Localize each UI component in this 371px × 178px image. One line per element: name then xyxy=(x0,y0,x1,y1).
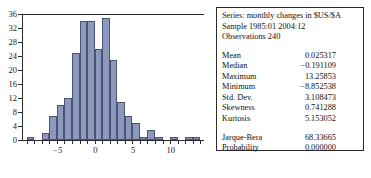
x-axis-tick-mark xyxy=(57,141,58,144)
y-axis-tick-label: 4 xyxy=(13,122,17,131)
y-axis-tick-label: 20 xyxy=(9,66,18,75)
histogram-bar xyxy=(87,21,95,140)
y-axis-tick-label: 8 xyxy=(13,108,17,117)
x-axis-tick-mark xyxy=(155,141,156,144)
stat-value: 5.153052 xyxy=(284,114,358,125)
histogram-bar xyxy=(102,18,110,141)
histogram-bar xyxy=(185,137,193,141)
stat-label: Median xyxy=(222,61,284,72)
x-axis-tick-mark xyxy=(42,141,43,144)
x-axis-tick-mark xyxy=(193,141,194,144)
histogram-bar xyxy=(140,137,148,141)
x-axis-tick-mark xyxy=(49,141,50,144)
stat-value: 3.108473 xyxy=(284,93,358,104)
histogram-bar xyxy=(125,116,133,141)
x-axis-tick-label: −5 xyxy=(53,146,62,155)
statistics-box: Series: monthly changes in $US/$A Sample… xyxy=(216,7,364,151)
x-axis-tick-mark xyxy=(125,141,126,144)
stats-spacer-2 xyxy=(222,125,358,133)
test-statistic-row: Jarque-Bera68.33665 xyxy=(222,133,358,144)
stats-spacer xyxy=(222,43,358,51)
descriptive-statistics-rows: Mean0.025317Median−0.191109Maximum13.258… xyxy=(222,51,358,125)
x-axis-tick-mark xyxy=(170,141,171,144)
x-axis-tick-mark xyxy=(132,141,133,144)
histogram-bar xyxy=(155,137,163,141)
x-axis-tick-mark xyxy=(140,141,141,144)
y-axis-tick-label: 36 xyxy=(9,10,18,19)
statistic-row: Minimum−8.852538 xyxy=(222,82,358,93)
histogram-bar xyxy=(49,116,57,141)
histogram-bar xyxy=(170,137,178,141)
statistic-row: Skewness0.741288 xyxy=(222,103,358,114)
x-axis-tick-mark xyxy=(178,141,179,144)
x-axis-tick-mark xyxy=(64,141,65,144)
x-axis-tick-mark xyxy=(72,141,73,144)
histogram-bar xyxy=(110,60,118,141)
test-statistic-row: Probability0.000000 xyxy=(222,143,358,154)
x-axis-tick-mark xyxy=(163,141,164,144)
stat-value: 0.741288 xyxy=(284,103,358,114)
x-axis-tick-mark xyxy=(80,141,81,144)
sample-label: Sample 1985:01 2004:12 xyxy=(222,22,358,33)
stat-label: Minimum xyxy=(222,82,284,93)
histogram-bar xyxy=(117,102,125,141)
statistic-row: Std. Dev.3.108473 xyxy=(222,93,358,104)
x-axis-tick-mark xyxy=(102,141,103,144)
stat-value: −8.852538 xyxy=(284,82,358,93)
histogram-bars xyxy=(23,14,204,140)
x-axis-tick-label: 10 xyxy=(167,146,176,155)
stat-value: 13.25853 xyxy=(284,72,358,83)
x-axis-tick-mark xyxy=(27,141,28,144)
x-axis-tick-mark xyxy=(34,141,35,144)
histogram-bar xyxy=(72,53,80,141)
x-axis-tick-mark xyxy=(200,141,201,144)
y-axis-tick-label: 16 xyxy=(9,80,18,89)
x-axis-tick-mark xyxy=(117,141,118,144)
x-axis-tick-label: 0 xyxy=(93,146,97,155)
histogram-bar xyxy=(193,137,201,141)
stat-label: Std. Dev. xyxy=(222,93,284,104)
series-label: Series: monthly changes in $US/$A xyxy=(222,11,358,22)
stat-label: Jarque-Bera xyxy=(222,133,284,144)
histogram-bar xyxy=(42,133,50,140)
x-axis-tick-mark xyxy=(87,141,88,144)
statistic-row: Kurtosis5.153052 xyxy=(222,114,358,125)
normality-test-rows: Jarque-Bera68.33665Probability0.000000 xyxy=(222,133,358,154)
statistic-row: Median−0.191109 xyxy=(222,61,358,72)
x-axis-tick-mark xyxy=(185,141,186,144)
histogram-bar xyxy=(132,123,140,141)
stat-label: Mean xyxy=(222,51,284,62)
statistic-row: Mean0.025317 xyxy=(222,51,358,62)
histogram-bar xyxy=(95,49,103,140)
stat-value: −0.191109 xyxy=(284,61,358,72)
y-axis-tick-label: 28 xyxy=(9,38,18,47)
statistic-row: Maximum13.25853 xyxy=(222,72,358,83)
x-axis-tick-labels: −50510 xyxy=(0,146,208,160)
observations-label: Observations 240 xyxy=(222,32,358,43)
histogram-bar xyxy=(57,105,65,140)
histogram-bar xyxy=(147,130,155,141)
histogram-bar xyxy=(27,137,35,141)
stat-value: 0.000000 xyxy=(284,143,358,154)
y-axis-tick-label: 12 xyxy=(9,94,18,103)
histogram-bar xyxy=(64,98,72,140)
x-axis-tick-mark xyxy=(147,141,148,144)
y-axis-tick-label: 24 xyxy=(9,52,18,61)
x-axis-ticks xyxy=(23,141,204,145)
histogram-bar xyxy=(80,21,88,140)
stat-label: Maximum xyxy=(222,72,284,83)
stat-label: Kurtosis xyxy=(222,114,284,125)
stat-label: Skewness xyxy=(222,103,284,114)
x-axis-tick-mark xyxy=(110,141,111,144)
x-axis-tick-label: 5 xyxy=(131,146,135,155)
stat-value: 68.33665 xyxy=(284,133,358,144)
stat-value: 0.025317 xyxy=(284,51,358,62)
y-axis-tick-label: 0 xyxy=(13,136,17,145)
y-axis-tick-label: 32 xyxy=(9,24,18,33)
stat-label: Probability xyxy=(222,143,284,154)
x-axis-tick-mark xyxy=(95,141,96,144)
histogram-statistics-figure: 04812162024283236 −50510 Series: monthly… xyxy=(0,0,371,178)
histogram-panel: 04812162024283236 −50510 xyxy=(0,0,208,178)
